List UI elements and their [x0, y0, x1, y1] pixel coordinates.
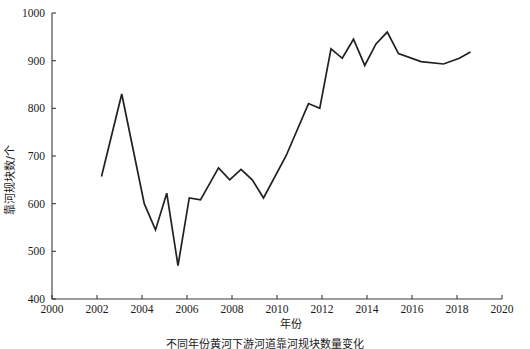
y-tick-label: 1000	[22, 7, 45, 19]
y-tick-label: 700	[28, 150, 46, 162]
chart-axes	[52, 13, 502, 299]
x-tick-label: 2006	[176, 303, 199, 315]
y-tick-label: 500	[28, 245, 46, 257]
x-tick-label: 2008	[221, 303, 244, 315]
figure-caption: 不同年份黄河下游河道靠河规块数量变化	[0, 335, 530, 349]
x-tick-label: 2014	[356, 303, 379, 315]
y-tick-label: 600	[28, 198, 46, 210]
y-axis-ticks	[52, 13, 56, 299]
y-tick-label: 400	[28, 293, 46, 305]
y-tick-label: 800	[28, 102, 46, 114]
x-tick-label: 2004	[131, 303, 154, 315]
x-tick-label: 2016	[401, 303, 424, 315]
data-series-line	[102, 32, 471, 266]
y-tick-label: 900	[28, 55, 46, 67]
y-axis-tick-labels: 4005006007008009001000	[22, 7, 45, 305]
y-axis-title: 靠河规块数/个	[3, 145, 17, 215]
x-axis-tick-labels: 2000200220042006200820102012201420162018…	[41, 303, 514, 315]
x-tick-label: 2012	[311, 303, 334, 315]
x-tick-label: 2018	[446, 303, 469, 315]
x-axis-title: 年份	[280, 317, 302, 331]
line-chart-svg: 2000200220042006200820102012201420162018…	[0, 0, 530, 349]
x-tick-label: 2010	[266, 303, 289, 315]
x-tick-label: 2002	[86, 303, 109, 315]
chart-figure: 2000200220042006200820102012201420162018…	[0, 0, 530, 349]
x-tick-label: 2020	[491, 303, 514, 315]
x-axis-ticks	[52, 295, 502, 299]
